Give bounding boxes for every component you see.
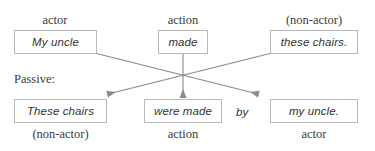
box-verb-active: made — [158, 30, 208, 54]
box-object-active: these chairs. — [270, 30, 358, 54]
label-non-actor-top: (non-actor) — [270, 13, 358, 27]
box-agent-passive-text: my uncle. — [289, 105, 339, 117]
arrow-object-to-subject — [108, 54, 270, 95]
connector-by: by — [236, 105, 248, 119]
voice-transformation-diagram: actor action (non-actor) My uncle made t… — [0, 0, 375, 151]
box-subject-passive: These chairs — [14, 99, 107, 123]
box-verb-passive-text: were made — [154, 105, 212, 117]
box-subject-active: My uncle — [14, 30, 97, 54]
arrow-subject-to-agent — [97, 54, 259, 95]
label-actor-top: actor — [14, 13, 96, 27]
label-action-top: action — [142, 13, 224, 27]
box-verb-passive: were made — [144, 99, 222, 123]
box-subject-active-text: My uncle — [32, 36, 79, 48]
box-subject-passive-text: These chairs — [27, 105, 94, 117]
label-action-bottom: action — [144, 127, 222, 141]
label-actor-bottom: actor — [270, 127, 358, 141]
box-object-active-text: these chairs. — [281, 36, 348, 48]
box-verb-active-text: made — [168, 36, 197, 48]
label-non-actor-bottom: (non-actor) — [14, 127, 107, 141]
box-agent-passive: my uncle. — [270, 99, 358, 123]
label-passive-section: Passive: — [14, 72, 55, 86]
